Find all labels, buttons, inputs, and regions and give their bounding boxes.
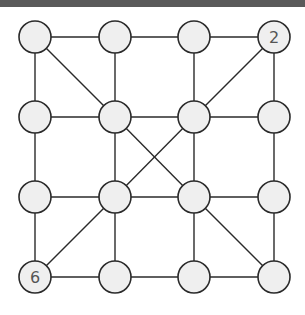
node-r0c2 [178, 21, 210, 53]
node-circle [258, 181, 290, 213]
node-r3c0: 6 [19, 261, 51, 293]
node-r1c1 [99, 101, 131, 133]
edge-r0c3-r1c2 [194, 37, 274, 117]
node-r0c0 [19, 21, 51, 53]
node-r2c3 [258, 181, 290, 213]
node-circle [19, 21, 51, 53]
node-circle [258, 261, 290, 293]
node-r2c1 [99, 181, 131, 213]
edge-r2c2-r3c3 [194, 197, 274, 277]
node-circle [178, 101, 210, 133]
node-label: 2 [269, 28, 279, 47]
node-circle [99, 261, 131, 293]
node-r3c2 [178, 261, 210, 293]
node-circle [99, 101, 131, 133]
node-r0c3: 2 [258, 21, 290, 53]
node-graph-diagram: 26 [0, 0, 305, 315]
node-r1c3 [258, 101, 290, 133]
node-r0c1 [99, 21, 131, 53]
node-circle [19, 181, 51, 213]
edges-layer [35, 37, 274, 277]
edge-r2c1-r3c0 [35, 197, 115, 277]
node-r2c0 [19, 181, 51, 213]
node-circle [178, 21, 210, 53]
node-r3c1 [99, 261, 131, 293]
node-circle [178, 181, 210, 213]
node-circle [99, 181, 131, 213]
node-circle [19, 101, 51, 133]
node-label: 6 [30, 268, 40, 287]
node-circle [99, 21, 131, 53]
node-circle [258, 101, 290, 133]
node-r2c2 [178, 181, 210, 213]
node-r1c0 [19, 101, 51, 133]
node-circle [178, 261, 210, 293]
node-r1c2 [178, 101, 210, 133]
node-r3c3 [258, 261, 290, 293]
edge-r0c0-r1c1 [35, 37, 115, 117]
